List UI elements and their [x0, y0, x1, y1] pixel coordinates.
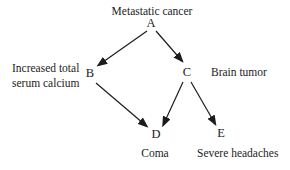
causal-diagram: Metastatic cancer A B Increased total se… — [0, 0, 290, 170]
node-b-letter: B — [86, 66, 94, 81]
edge-C-E-arrow — [191, 82, 216, 125]
node-c-caption: Brain tumor — [211, 65, 267, 79]
node-d-caption: Coma — [141, 146, 168, 160]
node-e-letter: E — [217, 126, 225, 141]
node-d-letter: D — [151, 127, 160, 142]
node-c-letter: C — [183, 65, 191, 80]
node-a-letter: A — [146, 16, 155, 31]
node-b-caption-line2: serum calcium — [12, 76, 79, 90]
node-b-caption-line1: Increased total — [12, 61, 79, 75]
edge-B-D-arrow — [96, 83, 147, 127]
edge-C-D-arrow — [163, 82, 183, 126]
node-e-caption: Severe headaches — [197, 146, 278, 160]
edge-A-C-arrow — [156, 31, 183, 62]
edge-A-B-arrow — [98, 31, 147, 66]
